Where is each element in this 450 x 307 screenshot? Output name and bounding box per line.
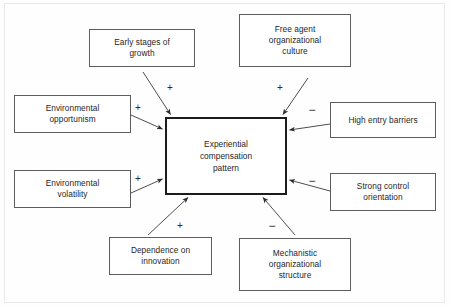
node-label-environmental-volatility: Environmental volatility — [43, 178, 103, 200]
arrow-environmental-opportunism — [131, 115, 163, 129]
sign-strong-control-orientation: − — [306, 175, 318, 187]
node-mechanistic-organizational-structure[interactable]: Mechanistic organizational structure — [239, 238, 351, 291]
center-node-label: Experiential compensation pattern — [197, 138, 255, 175]
node-early-stages-of-growth[interactable]: Early stages of growth — [89, 29, 195, 67]
diagram-canvas: Experiential compensation pattern Early … — [0, 0, 450, 307]
node-label-free-agent-organizational-culture: Free agent organizational culture — [266, 24, 324, 57]
sign-high-entry-barriers: − — [306, 104, 318, 116]
node-strong-control-orientation[interactable]: Strong control orientation — [330, 173, 436, 211]
arrow-free-agent-organizational-culture — [283, 78, 308, 115]
node-environmental-volatility[interactable]: Environmental volatility — [14, 170, 131, 208]
sign-environmental-volatility: + — [132, 174, 144, 184]
node-dependence-on-innovation[interactable]: Dependence on innovation — [109, 237, 212, 275]
arrow-early-stages-of-growth — [143, 72, 171, 115]
arrow-high-entry-barriers — [290, 124, 331, 130]
node-high-entry-barriers[interactable]: High entry barriers — [330, 102, 436, 138]
sign-mechanistic-organizational-structure: − — [266, 220, 278, 232]
node-label-mechanistic-organizational-structure: Mechanistic organizational structure — [266, 248, 324, 281]
node-label-high-entry-barriers: High entry barriers — [345, 115, 420, 126]
sign-free-agent-organizational-culture: + — [274, 83, 286, 93]
sign-environmental-opportunism: + — [132, 103, 144, 113]
node-label-dependence-on-innovation: Dependence on innovation — [128, 245, 193, 267]
center-node-experiential-compensation-pattern[interactable]: Experiential compensation pattern — [165, 117, 287, 195]
sign-early-stages-of-growth: + — [164, 83, 176, 93]
node-label-strong-control-orientation: Strong control orientation — [354, 181, 412, 203]
node-label-environmental-opportunism: Environmental opportunism — [43, 103, 103, 125]
sign-dependence-on-innovation: + — [174, 221, 186, 231]
node-free-agent-organizational-culture[interactable]: Free agent organizational culture — [239, 14, 351, 67]
node-environmental-opportunism[interactable]: Environmental opportunism — [14, 95, 131, 133]
node-label-early-stages-of-growth: Early stages of growth — [111, 37, 173, 59]
